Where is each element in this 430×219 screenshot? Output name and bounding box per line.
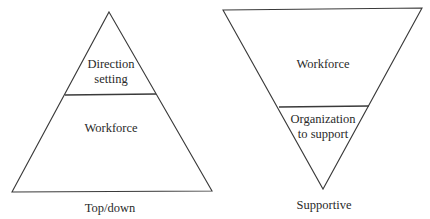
supportive-triangle-outline <box>223 8 422 189</box>
label-line: Direction <box>87 57 134 72</box>
top-down-caption: Top/down <box>85 201 136 216</box>
supportive-top-section-label: Workforce <box>296 57 349 72</box>
top-down-triangle-outline <box>12 12 212 192</box>
top-down-top-section-label: Direction setting <box>87 57 134 87</box>
top-down-pyramid <box>12 12 212 192</box>
supportive-divider-line <box>279 106 369 107</box>
top-down-bottom-section-label: Workforce <box>84 121 137 136</box>
label-line: Workforce <box>84 121 137 136</box>
supportive-bottom-section-label: Organization to support <box>290 112 355 142</box>
diagram-canvas <box>0 0 430 219</box>
label-line: setting <box>87 72 134 87</box>
supportive-pyramid <box>223 8 422 189</box>
label-line: Organization <box>290 112 355 127</box>
label-line: Workforce <box>296 57 349 72</box>
label-line: to support <box>290 127 355 142</box>
supportive-caption: Supportive <box>297 198 352 213</box>
top-down-divider-line <box>65 94 156 95</box>
